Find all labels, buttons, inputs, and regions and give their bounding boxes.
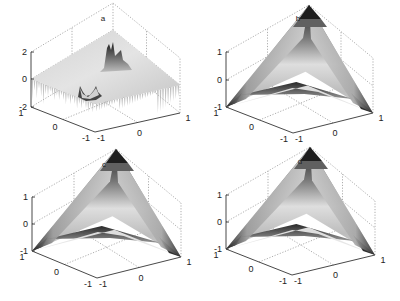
- panel-a: a20-210-1-101: [18, 3, 190, 143]
- z-tick-label: 0: [217, 75, 222, 85]
- x-tick-label: -1: [295, 134, 303, 144]
- z-tick-label: 0: [23, 219, 28, 229]
- y-tick-label: 0: [54, 267, 59, 277]
- x-tick-label: 1: [380, 255, 385, 265]
- y-tick-label: 0: [248, 264, 253, 274]
- z-tick-label: 1: [217, 47, 222, 57]
- y-tick-label: -1: [280, 134, 288, 144]
- panel-b: b10-110-1-101: [213, 5, 383, 144]
- y-tick-label: 1: [19, 252, 24, 262]
- y-axis: [32, 251, 97, 278]
- panel-title: a: [101, 14, 106, 23]
- x-tick-label: 0: [137, 128, 142, 138]
- x-tick-label: -1: [294, 276, 302, 286]
- y-tick-label: 0: [249, 122, 254, 132]
- y-axis: [226, 249, 292, 275]
- y-tick-label: 1: [213, 250, 218, 260]
- surface-plot: [32, 149, 181, 257]
- panel-c: c10-110-1-101: [19, 149, 191, 289]
- x-tick-label: -1: [97, 133, 105, 143]
- x-tick-label: 1: [378, 113, 383, 123]
- y-axis: [31, 107, 95, 132]
- x-tick-label: 0: [333, 270, 338, 280]
- y-tick-label: 1: [213, 108, 218, 118]
- x-tick-label: -1: [99, 279, 107, 289]
- panel-d: d10-110-1-101: [213, 147, 385, 286]
- x-tick-label: 1: [186, 257, 191, 267]
- figure: a20-210-1-101b10-110-1-101c10-110-1-101d…: [0, 0, 400, 301]
- y-tick-label: 1: [18, 108, 23, 118]
- panel-title: d: [298, 157, 302, 166]
- surface-plot: [31, 30, 180, 114]
- y-tick-label: -1: [84, 279, 92, 289]
- panel-title: b: [296, 14, 301, 23]
- y-tick-label: -1: [82, 133, 90, 143]
- y-axis: [226, 107, 293, 133]
- y-tick-label: 0: [52, 122, 57, 132]
- z-tick-label: 0: [22, 74, 27, 84]
- x-tick-label: 1: [185, 113, 190, 123]
- z-tick-label: 2: [22, 47, 27, 57]
- z-tick-label: 1: [217, 190, 222, 200]
- x-tick-label: 0: [138, 273, 143, 283]
- y-tick-label: -1: [279, 276, 287, 286]
- z-tick-label: 0: [217, 217, 222, 227]
- panel-title: c: [102, 160, 106, 169]
- x-tick-label: 0: [332, 128, 337, 138]
- z-tick-label: 1: [23, 192, 28, 202]
